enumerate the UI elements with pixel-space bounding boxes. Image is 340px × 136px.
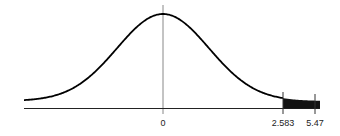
tick-label-upper: 5.47 <box>306 118 324 128</box>
shaded-tail <box>283 98 320 108</box>
tick-label-zero: 0 <box>160 118 165 128</box>
tick-label-lower: 2.583 <box>272 118 295 128</box>
chart-canvas <box>0 0 340 136</box>
density-curve <box>24 14 283 100</box>
normal-distribution-chart: 0 2.583 5.47 <box>0 0 340 136</box>
